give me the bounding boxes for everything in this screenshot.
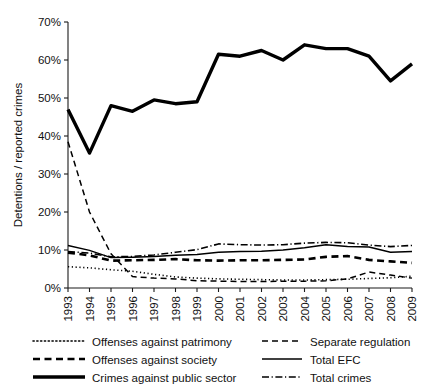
x-tick-label: 2000 (213, 296, 225, 322)
legend-item: Total crimes (262, 372, 372, 384)
legend-label: Total crimes (310, 372, 372, 384)
line-chart: Detentions / reported crimes 0%10%20%30%… (0, 0, 428, 392)
x-tick-label: 1999 (191, 296, 203, 322)
y-axis-title: Detentions / reported crimes (12, 83, 24, 228)
series-line (68, 242, 412, 256)
legend-label: Offenses against patrimony (92, 336, 232, 348)
y-tick-label: 50% (38, 92, 61, 104)
y-axis-tick-labels: 0%10%20%30%40%50%60%70% (38, 16, 61, 294)
y-tick-label: 70% (38, 16, 61, 28)
x-tick-label: 1997 (148, 296, 160, 322)
chart-legend: Offenses against patrimonySeparate regul… (33, 336, 410, 384)
y-tick-label: 10% (38, 244, 61, 256)
y-tick-label: 20% (38, 206, 61, 218)
x-tick-label: 1998 (170, 296, 182, 322)
x-tick-label: 2008 (385, 296, 397, 322)
legend-item: Offenses against patrimony (33, 336, 232, 348)
y-tick-label: 30% (38, 168, 61, 180)
y-tick-label: 60% (38, 54, 61, 66)
x-axis-tick-labels: 1993199419951996199719981999200020012002… (62, 295, 418, 321)
x-tick-label: 2002 (256, 296, 268, 322)
chart-container: Detentions / reported crimes 0%10%20%30%… (0, 0, 428, 392)
legend-item: Separate regulation (262, 336, 410, 348)
legend-label: Offenses against society (92, 354, 217, 366)
x-tick-label: 1993 (62, 296, 74, 322)
series-group (68, 45, 412, 282)
y-tick-label: 0% (44, 282, 61, 294)
legend-item: Offenses against society (33, 354, 217, 366)
x-tick-label: 2007 (363, 296, 375, 322)
x-tick-label: 2006 (342, 296, 354, 322)
y-tick-label: 40% (38, 130, 61, 142)
series-line (68, 245, 412, 258)
x-tick-label: 2005 (320, 296, 332, 322)
series-line (68, 45, 412, 153)
legend-item: Total EFC (262, 354, 361, 366)
legend-item: Crimes against public sector (33, 372, 237, 384)
series-line (68, 267, 412, 280)
y-axis-ticks (64, 22, 68, 288)
x-tick-label: 2001 (234, 296, 246, 322)
x-tick-label: 2009 (406, 296, 418, 322)
x-tick-label: 2003 (277, 296, 289, 322)
x-tick-label: 1995 (105, 296, 117, 322)
legend-label: Separate regulation (310, 336, 410, 348)
x-tick-label: 2004 (299, 295, 311, 321)
x-tick-label: 1996 (127, 296, 139, 322)
x-tick-label: 1994 (84, 295, 96, 321)
x-axis-ticks (68, 288, 412, 292)
legend-label: Crimes against public sector (92, 372, 237, 384)
legend-label: Total EFC (310, 354, 361, 366)
